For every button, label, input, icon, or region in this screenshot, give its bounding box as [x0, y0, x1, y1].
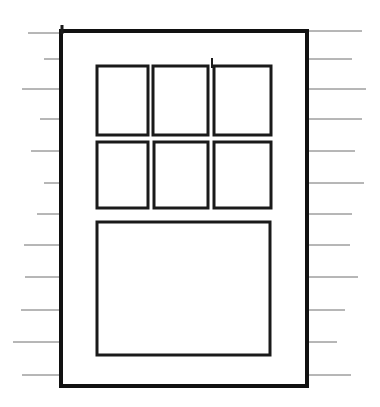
- window-elevation-drawing: [0, 0, 380, 407]
- middle-left-pane: [97, 142, 148, 208]
- drawing-canvas: Black-and-white line sketch of a six-ove…: [0, 0, 380, 407]
- right-wall-siding: [306, 31, 366, 375]
- left-wall-siding: [13, 33, 62, 375]
- lower-large-pane: [97, 222, 270, 355]
- middle-center-pane: [154, 142, 208, 208]
- upper-center-pane: [153, 66, 208, 135]
- upper-left-pane: [97, 66, 148, 135]
- upper-right-pane: [214, 66, 271, 135]
- lower-large-pane: [97, 222, 270, 355]
- middle-right-pane: [214, 142, 271, 208]
